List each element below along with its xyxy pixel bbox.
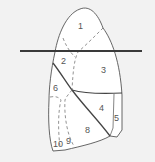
label-segment-5: 5 (114, 113, 119, 123)
label-segment-9: 9 (66, 136, 71, 146)
label-segment-4: 4 (99, 103, 104, 113)
label-segment-3: 3 (101, 65, 106, 75)
label-segment-6: 6 (53, 83, 58, 93)
lung-segment-diagram: 1 2 3 4 5 6 8 9 10 (0, 0, 155, 162)
lung-svg: 1 2 3 4 5 6 8 9 10 (0, 0, 155, 162)
label-segment-10: 10 (53, 139, 63, 149)
label-segment-2: 2 (61, 56, 66, 66)
label-segment-1: 1 (78, 21, 83, 31)
label-segment-8: 8 (85, 125, 90, 135)
